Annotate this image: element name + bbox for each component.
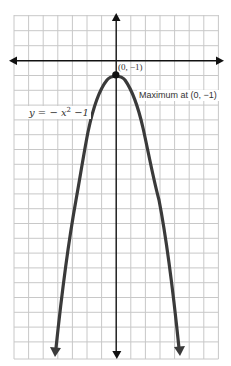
curve-right-arrow-icon	[174, 346, 185, 356]
equation-suffix: −1	[71, 107, 89, 118]
x-axis-right-arrow-icon	[216, 57, 224, 66]
curve-left-arrow-icon	[50, 347, 61, 357]
equation-label: y = − x2 −1	[27, 106, 91, 119]
vertex-label: (0, −1)	[118, 63, 143, 72]
vertex-point	[112, 71, 119, 78]
parabola-plot	[0, 0, 231, 366]
equation-prefix: y = − x	[29, 107, 67, 118]
x-axis-left-arrow-icon	[9, 57, 17, 66]
y-axis-top-arrow-icon	[112, 13, 121, 21]
y-axis-bottom-arrow-icon	[112, 351, 121, 359]
maximum-annotation: Maximum at (0, −1)	[137, 90, 219, 101]
